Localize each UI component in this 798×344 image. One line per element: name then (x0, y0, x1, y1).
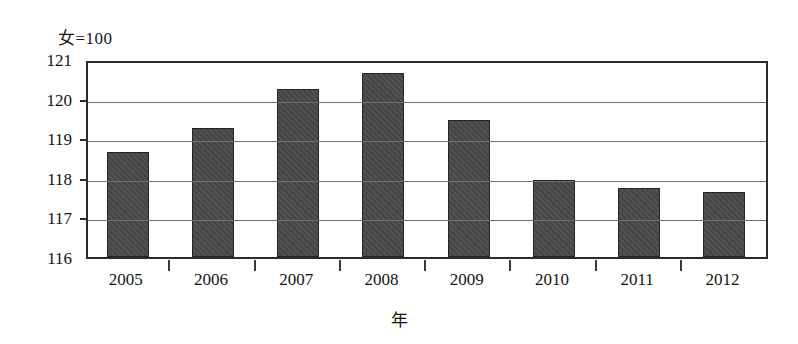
plot-area (86, 61, 768, 259)
x-axis-title: 年 (0, 306, 798, 331)
y-tick-label-120: 120 (28, 92, 72, 109)
x-tick-label-2012: 2012 (682, 270, 762, 289)
x-tick-label-2011: 2011 (597, 270, 677, 289)
bar-2005 (107, 152, 149, 257)
gridline-119 (88, 141, 766, 142)
y-tick-mark-119 (80, 139, 87, 141)
x-tick-label-2005: 2005 (86, 270, 166, 289)
gridline-118 (88, 181, 766, 182)
y-tick-mark-118 (80, 179, 87, 181)
bar-2008 (362, 73, 404, 257)
bar-chart: 女=100 121120119118117116 200520062007200… (0, 0, 798, 344)
x-tick-label-2007: 2007 (256, 270, 336, 289)
bar-2012 (703, 192, 745, 257)
x-tick-label-2008: 2008 (341, 270, 421, 289)
bar-2011 (618, 188, 660, 257)
y-tick-label-118: 118 (28, 171, 72, 188)
gridline-120 (88, 102, 766, 103)
y-tick-label-117: 117 (28, 210, 72, 227)
y-tick-label-121: 121 (28, 52, 72, 69)
y-tick-label-116: 116 (28, 250, 72, 267)
y-tick-mark-117 (80, 218, 87, 220)
bars-layer (88, 63, 766, 257)
x-tick-label-2010: 2010 (512, 270, 592, 289)
x-tick-label-2006: 2006 (171, 270, 251, 289)
bar-2006 (192, 128, 234, 257)
bar-2007 (277, 89, 319, 257)
unit-label: 女=100 (58, 24, 113, 49)
y-tick-label-119: 119 (28, 131, 72, 148)
gridline-117 (88, 220, 766, 221)
bar-2010 (533, 180, 575, 257)
y-tick-mark-120 (80, 100, 87, 102)
x-tick-label-2009: 2009 (427, 270, 507, 289)
